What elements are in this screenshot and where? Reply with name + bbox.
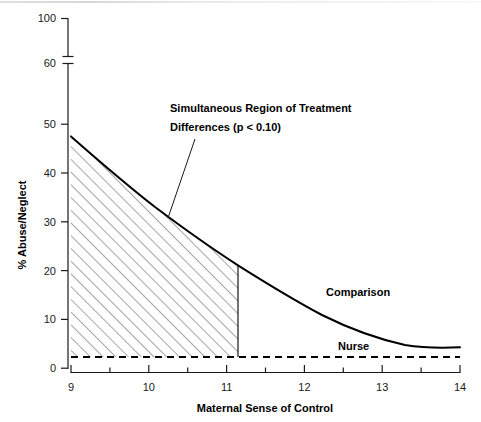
scan-artifact [0,1,481,3]
region-annotation-line-1: Simultaneous Region of Treatment [170,102,352,114]
y-tick-label-100: 100 [38,12,56,24]
region-hatch-fill [68,130,246,362]
region-annotation-line-2: Differences (p < 0.10) [170,121,281,133]
x-tick-label-12: 12 [298,381,310,393]
y-tick-label-30: 30 [44,216,56,228]
y-tick-label-40: 40 [44,167,56,179]
x-axis-title: Maternal Sense of Control [197,402,333,414]
y-tick-label-60: 60 [44,57,56,69]
x-tick-label-13: 13 [376,381,388,393]
x-tick-label-14: 14 [454,381,466,393]
y-tick-label-50: 50 [44,118,56,130]
comparison-series-label: Comparison [326,286,390,298]
y-tick-label-10: 10 [44,313,56,325]
y-axis: 100 60 50 40 30 20 10 0 [38,12,74,374]
x-tick-label-10: 10 [143,381,155,393]
y-axis-title: % Abuse/Neglect [16,180,28,269]
y-tick-label-0: 0 [50,362,56,374]
shaded-region [68,130,246,362]
chart-figure: 100 60 50 40 30 20 10 0 9 10 11 [0,0,481,422]
y-tick-label-20: 20 [44,265,56,277]
region-annotation-leader-line [168,139,195,218]
x-tick-label-9: 9 [68,381,74,393]
x-tick-label-11: 11 [221,381,232,393]
region-annotation: Simultaneous Region of Treatment Differe… [168,102,352,218]
abuse-neglect-chart: 100 60 50 40 30 20 10 0 9 10 11 [0,0,481,422]
x-axis: 9 10 11 12 13 14 [68,365,466,393]
nurse-series-label: Nurse [338,340,369,352]
